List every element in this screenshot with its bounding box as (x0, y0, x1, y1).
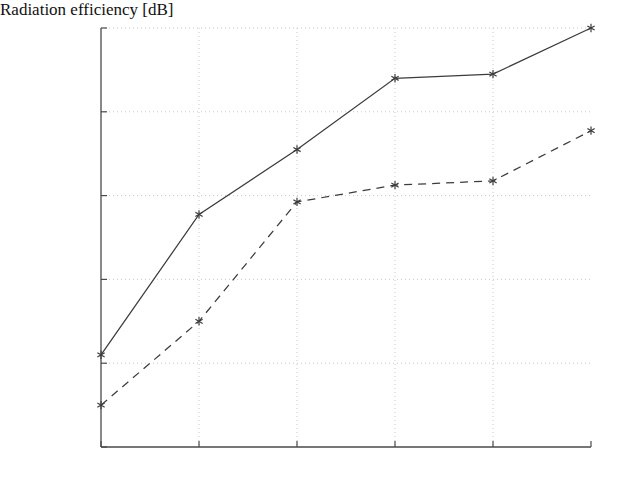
data-point-marker (293, 145, 300, 153)
data-point-marker (587, 126, 594, 134)
data-series-layer (97, 24, 594, 410)
plot-canvas (0, 0, 629, 503)
series-line-patch (101, 28, 591, 355)
axes-frame (101, 28, 591, 447)
series-line-helix (101, 131, 591, 405)
y-axis-label: Radiation efficiency [dB] (0, 0, 173, 20)
gridlines (101, 28, 591, 447)
data-point-marker (587, 24, 594, 32)
axis-ticks (101, 28, 591, 447)
radiation-efficiency-chart: Radiation efficiency [dB] Position of ha… (0, 0, 629, 503)
